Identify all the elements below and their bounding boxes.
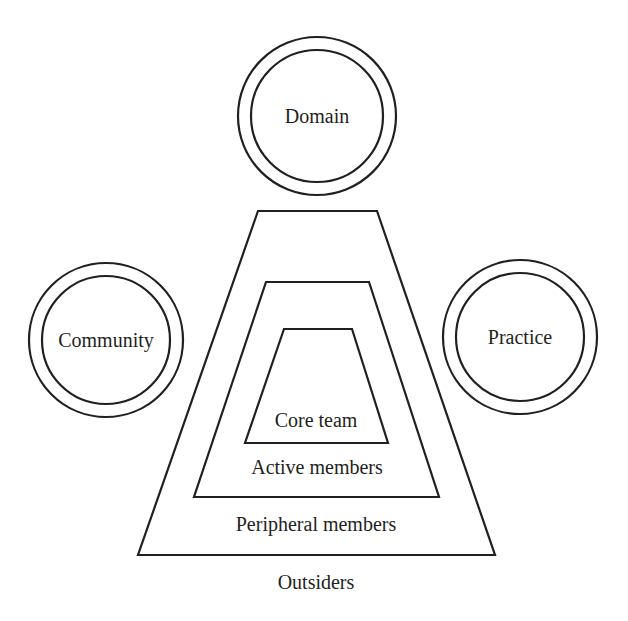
active-members-label: Active members bbox=[251, 456, 383, 478]
practice-label: Practice bbox=[488, 326, 553, 348]
membership-layers: Core team Active members Peripheral memb… bbox=[138, 211, 495, 555]
community-of-practice-diagram: Domain Community Practice Core team Acti… bbox=[0, 0, 628, 621]
outsiders-label: Outsiders bbox=[278, 571, 355, 593]
community-node: Community bbox=[29, 263, 183, 417]
domain-label: Domain bbox=[285, 105, 349, 127]
domain-node: Domain bbox=[238, 37, 396, 195]
community-label: Community bbox=[58, 329, 154, 352]
peripheral-members-label: Peripheral members bbox=[236, 513, 397, 536]
peripheral-members-layer bbox=[138, 211, 495, 555]
core-team-label: Core team bbox=[275, 409, 358, 431]
practice-node: Practice bbox=[443, 260, 597, 414]
